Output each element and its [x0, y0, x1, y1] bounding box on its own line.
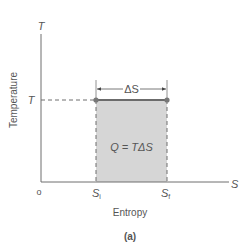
y-axis-title: Temperature — [8, 71, 19, 128]
final-state-point — [164, 97, 169, 102]
temperature-tick-label: T — [28, 94, 36, 106]
s-initial-label: Si — [92, 187, 101, 200]
origin-label: o — [36, 187, 41, 197]
y-axis-symbol: T — [38, 20, 46, 32]
x-axis-title: Entropy — [113, 207, 147, 218]
s-final-label: Sf — [161, 187, 170, 200]
heat-equation-label: Q = TΔS — [110, 141, 153, 153]
x-axis-symbol: S — [231, 178, 239, 190]
temperature-entropy-diagram: ΔS T S T Temperature o Si Sf Q = TΔS Ent… — [0, 0, 248, 252]
panel-label: (a) — [124, 231, 136, 242]
initial-state-point — [93, 97, 98, 102]
delta-s-label: ΔS — [124, 83, 139, 95]
